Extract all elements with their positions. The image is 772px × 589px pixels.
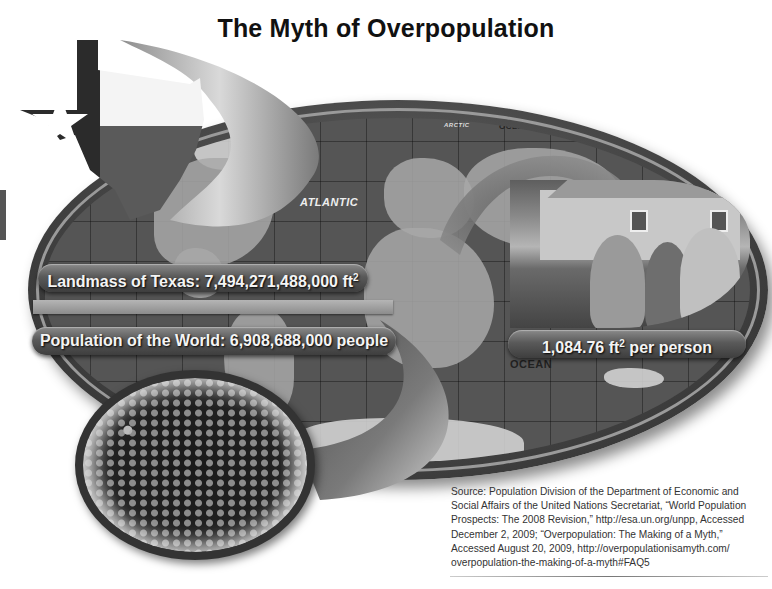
source-citation: Source: Population Division of the Depar… xyxy=(451,485,761,570)
area-per-person-label: 1,084.76 ft2 per person xyxy=(508,330,746,358)
source-line: Accessed August 20, 2009, http://overpop… xyxy=(451,542,761,556)
source-line: December 2, 2009; “Overpopulation: The M… xyxy=(451,528,761,542)
texas-landmass-label: Landmass of Texas: 7,494,271,488,000 ft2 xyxy=(38,264,368,292)
house-roof xyxy=(530,180,750,198)
source-line: Social Affairs of the United Nations Sec… xyxy=(451,499,761,513)
person-woman xyxy=(680,228,740,328)
source-line: Prospects: The 2008 Revision,” http://es… xyxy=(451,513,761,527)
divider-bar xyxy=(33,300,393,314)
crowd-vignette xyxy=(83,378,307,552)
area-per-person-suffix: per person xyxy=(625,339,712,356)
infographic-title: The Myth of Overpopulation xyxy=(0,14,772,43)
texas-flag-shape xyxy=(20,40,250,220)
squared-superscript: 2 xyxy=(353,272,359,283)
indian-ocean-label: OCEAN xyxy=(510,358,552,370)
house-window xyxy=(630,210,648,232)
person-man xyxy=(590,235,645,328)
decorative-edge-chip xyxy=(0,190,6,240)
australia-landmass xyxy=(604,368,664,388)
footer-rule xyxy=(450,576,768,577)
family-photo xyxy=(510,180,750,328)
area-per-person-value: 1,084.76 ft xyxy=(542,339,619,356)
world-population-label: Population of the World: 6,908,688,000 p… xyxy=(32,327,396,355)
crowd-photo xyxy=(83,378,307,552)
source-line: Source: Population Division of the Depar… xyxy=(451,485,761,499)
texas-landmass-text: Landmass of Texas: 7,494,271,488,000 ft xyxy=(47,273,353,290)
source-line: overpopulation-the-making-of-a-myth#FAQ5 xyxy=(451,556,761,570)
